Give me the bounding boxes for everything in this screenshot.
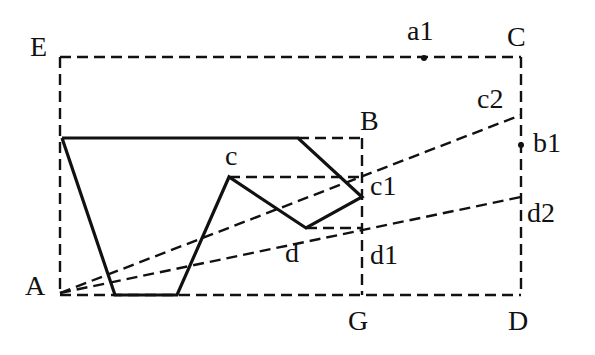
diagram-canvas: E a1 C c2 B b1 c c1 d2 d d1 A G D	[0, 0, 595, 355]
geometry-figure: E a1 C c2 B b1 c c1 d2 d d1 A G D	[0, 0, 595, 355]
label-d2: d2	[527, 197, 555, 228]
label-E: E	[30, 31, 47, 62]
label-d1: d1	[370, 239, 398, 270]
label-b1: b1	[533, 127, 561, 158]
point-dot-a1	[421, 55, 427, 61]
label-d: d	[285, 237, 299, 268]
label-C: C	[507, 21, 526, 52]
label-c2: c2	[477, 83, 503, 114]
label-c: c	[225, 140, 237, 171]
label-c1: c1	[370, 170, 396, 201]
solid-polygon-outline	[62, 138, 362, 295]
label-a1: a1	[407, 15, 433, 46]
label-B: B	[360, 105, 379, 136]
label-D: D	[508, 305, 528, 336]
label-A: A	[25, 270, 46, 301]
label-G: G	[348, 305, 368, 336]
point-dot-b1	[518, 142, 524, 148]
